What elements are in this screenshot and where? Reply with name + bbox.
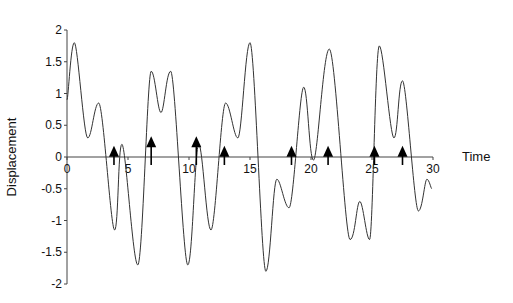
x-tick-label: 10 (182, 162, 196, 176)
y-tick-label: 2 (55, 23, 62, 37)
y-axis: -2-1.5-1-0.500.511.52 (41, 23, 67, 291)
x-axis-title: Time (462, 149, 490, 164)
x-tick-label: 15 (243, 162, 257, 176)
x-tick-label: 25 (365, 162, 379, 176)
arrow-up-icon (191, 136, 201, 165)
arrow-up-icon (398, 146, 408, 165)
y-tick-label: 1 (55, 87, 62, 101)
y-tick-label: -0.5 (41, 182, 62, 196)
arrow-up-icon (109, 146, 119, 165)
y-tick-label: 0.5 (45, 118, 62, 132)
x-tick-label: 20 (304, 162, 318, 176)
y-tick-label: 1.5 (45, 55, 62, 69)
x-tick-label: 30 (426, 162, 440, 176)
x-axis: 051015202530 (64, 157, 440, 176)
displacement-time-chart: -2-1.5-1-0.500.511.52 051015202530 Displ… (0, 0, 513, 303)
y-tick-label: -2 (51, 277, 62, 291)
y-tick-label: 0 (55, 150, 62, 164)
arrow-up-icon (219, 146, 229, 165)
y-axis-title: Displacement (4, 117, 19, 196)
x-tick-label: 0 (64, 162, 71, 176)
y-tick-label: -1 (51, 214, 62, 228)
arrow-up-icon (146, 136, 156, 165)
arrow-up-icon (323, 146, 333, 165)
y-tick-label: -1.5 (41, 245, 62, 259)
